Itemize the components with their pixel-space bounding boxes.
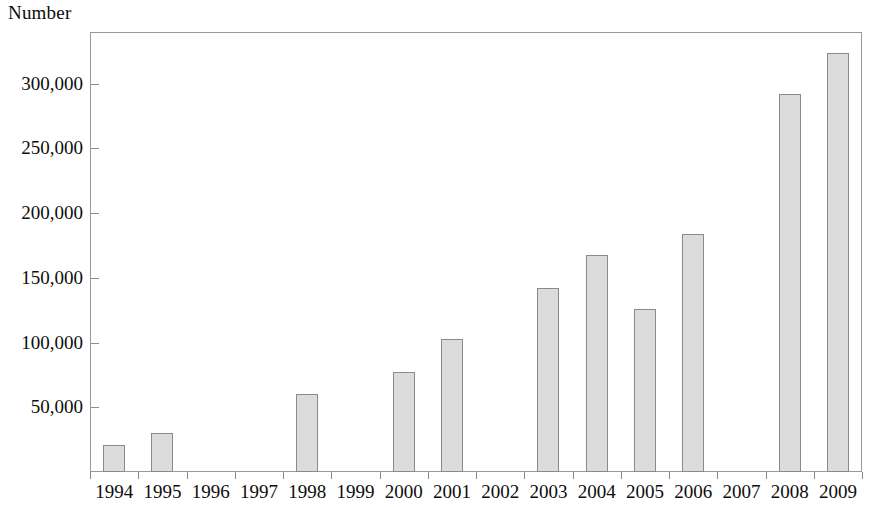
x-tick-label: 2006 [669,481,717,503]
x-tick-label: 2001 [428,481,476,503]
bar [586,255,608,472]
y-tick-label: 100,000 [0,333,83,352]
x-tick-mark-origin [90,472,91,479]
y-axis-title: Number [8,2,71,24]
x-tick-label: 1998 [283,481,331,503]
bar-chart: Number 50,000100,000150,000200,000250,00… [0,0,875,507]
x-tick-mark [862,472,863,479]
x-tick-label: 2009 [814,481,862,503]
x-tick-label: 2003 [524,481,572,503]
bar [441,339,463,472]
bar [393,372,415,472]
y-tick-label: 150,000 [0,268,83,287]
x-tick-label: 2005 [621,481,669,503]
x-tick-label: 1997 [235,481,283,503]
x-tick-mark [573,472,574,479]
bar [296,394,318,472]
x-tick-mark [428,472,429,479]
x-tick-mark [717,472,718,479]
x-tick-label: 2004 [573,481,621,503]
x-tick-mark [283,472,284,479]
bar [103,445,125,472]
bar [779,94,801,472]
x-tick-mark [669,472,670,479]
bar [537,288,559,472]
bar [151,433,173,472]
x-tick-label: 1996 [187,481,235,503]
y-tick-label: 50,000 [0,397,83,416]
y-tick-label: 200,000 [0,203,83,222]
bars-layer [90,32,862,472]
x-tick-label: 1999 [331,481,379,503]
x-tick-mark [380,472,381,479]
x-tick-mark [524,472,525,479]
bar [682,234,704,472]
x-tick-label: 1994 [90,481,138,503]
bar [634,309,656,472]
y-tick-label: 300,000 [0,74,83,93]
x-tick-mark [331,472,332,479]
x-tick-mark [766,472,767,479]
x-tick-mark [476,472,477,479]
y-tick-label: 250,000 [0,138,83,157]
x-tick-label: 1995 [138,481,186,503]
x-tick-mark [814,472,815,479]
x-tick-label: 2002 [476,481,524,503]
x-tick-mark [235,472,236,479]
x-tick-mark [138,472,139,479]
x-tick-label: 2008 [766,481,814,503]
x-tick-mark [621,472,622,479]
x-tick-mark [187,472,188,479]
x-tick-label: 2007 [717,481,765,503]
bar [827,53,849,472]
x-tick-label: 2000 [380,481,428,503]
